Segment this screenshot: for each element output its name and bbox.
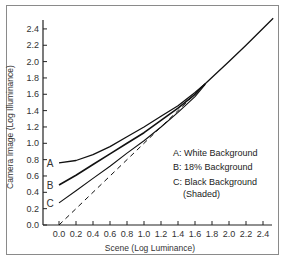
y-tick-label: 1.4 [26, 106, 39, 116]
x-tick-label: 0.4 [87, 229, 100, 239]
x-tick-label: 1.0 [138, 229, 151, 239]
y-tick-label: 0.4 [26, 187, 39, 197]
curve-label-a: A [47, 158, 54, 169]
y-tick-label: 2.0 [26, 57, 39, 67]
y-tick-label: 2.4 [26, 24, 39, 34]
legend-item-a: A: White Background [173, 148, 258, 158]
chart-svg: 0.00.20.40.60.81.01.21.41.61.82.02.22.40… [0, 0, 281, 264]
curve-label-b: B [47, 180, 54, 191]
series-line-a [59, 18, 273, 163]
x-tick-label: 0.8 [121, 229, 134, 239]
x-tick-label: 0.2 [70, 229, 83, 239]
x-tick-label: 1.4 [172, 229, 185, 239]
y-tick-label: 1.8 [26, 73, 39, 83]
y-tick-label: 1.0 [26, 138, 39, 148]
y-tick-label: 1.6 [26, 89, 39, 99]
curve-label-c: C [46, 198, 53, 209]
y-tick-label: 0.0 [26, 220, 39, 230]
x-tick-label: 0.0 [53, 229, 66, 239]
x-axis-title: Scene (Log Luminance) [105, 243, 195, 253]
legend-item-c: C: Black Background [173, 177, 257, 187]
legend-item-b: B: 18% Background [173, 162, 253, 172]
y-tick-label: 2.2 [26, 40, 39, 50]
x-tick-label: 2.2 [240, 229, 253, 239]
x-tick-label: 1.6 [189, 229, 202, 239]
legend-item-c-sub: (Shaded) [183, 189, 220, 199]
x-tick-label: 1.2 [155, 229, 168, 239]
y-tick-label: 0.6 [26, 171, 39, 181]
y-axis-title: Camera Image (Log Illuminance) [5, 65, 15, 189]
x-tick-label: 2.0 [223, 229, 236, 239]
y-tick-label: 1.2 [26, 122, 39, 132]
x-tick-label: 0.6 [104, 229, 117, 239]
x-tick-label: 2.4 [257, 229, 270, 239]
y-tick-label: 0.8 [26, 155, 39, 165]
y-tick-label: 0.2 [26, 204, 39, 214]
x-tick-label: 1.8 [206, 229, 219, 239]
